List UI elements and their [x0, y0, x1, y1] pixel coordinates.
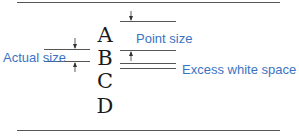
- arrow-up-icon: [73, 62, 77, 72]
- arrow-down-icon: [129, 11, 133, 21]
- actual-size-label: Actual size: [3, 51, 66, 64]
- type-size-diagram: A B C D Point size Actual size Excess wh…: [0, 0, 299, 136]
- point-size-label: Point size: [136, 32, 192, 45]
- letter-c: C: [97, 71, 113, 92]
- arrow-up-icon: [129, 51, 133, 61]
- letter-b: B: [97, 48, 112, 69]
- excess-white-space-label: Excess white space: [182, 63, 296, 76]
- letter-d: D: [97, 96, 114, 117]
- letter-a: A: [97, 25, 112, 46]
- arrow-down-icon: [73, 38, 77, 49]
